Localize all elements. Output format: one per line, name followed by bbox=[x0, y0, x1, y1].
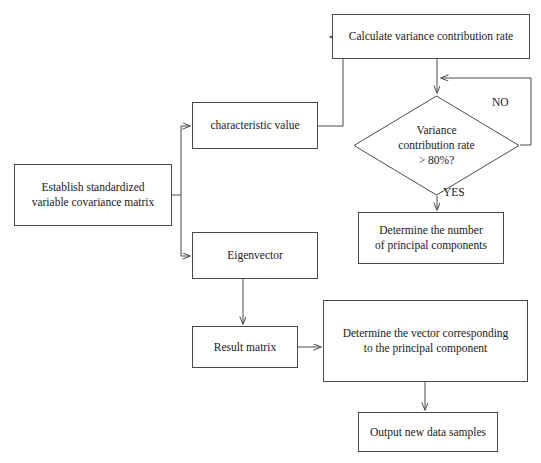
edge-label-no: NO bbox=[492, 96, 509, 108]
node-label: Determine the number of principal compon… bbox=[370, 223, 492, 252]
node-result-matrix[interactable]: Result matrix bbox=[192, 326, 298, 368]
node-label: Output new data samples bbox=[365, 425, 491, 440]
node-label: Result matrix bbox=[209, 340, 281, 355]
node-determine-number-of-principal-components[interactable]: Determine the number of principal compon… bbox=[358, 212, 504, 264]
node-establish-standardized-matrix[interactable]: Establish standardized variable covarian… bbox=[14, 164, 172, 226]
node-determine-vector-for-principal-component[interactable]: Determine the vector corresponding to th… bbox=[323, 300, 528, 382]
edge-label-yes: YES bbox=[443, 186, 465, 198]
node-label: Eigenvector bbox=[222, 248, 288, 263]
node-eigenvector[interactable]: Eigenvector bbox=[192, 232, 318, 279]
node-label: Variance contribution rate > 80%? bbox=[398, 123, 474, 168]
node-calculate-variance-contribution-rate[interactable]: Calculate variance contribution rate bbox=[332, 14, 530, 59]
node-characteristic-value[interactable]: characteristic value bbox=[192, 102, 318, 149]
node-label: Calculate variance contribution rate bbox=[344, 29, 518, 44]
flowchart-canvas: Establish standardized variable covarian… bbox=[0, 0, 541, 463]
node-variance-decision[interactable]: Variance contribution rate > 80%? bbox=[353, 95, 520, 196]
node-label: Establish standardized variable covarian… bbox=[27, 180, 160, 209]
node-label: Determine the vector corresponding to th… bbox=[338, 326, 514, 355]
node-output-new-data-samples[interactable]: Output new data samples bbox=[358, 412, 498, 452]
node-label: characteristic value bbox=[205, 118, 304, 133]
